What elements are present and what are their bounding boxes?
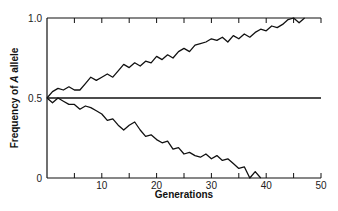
x-tick-label: 10	[96, 180, 108, 191]
y-axis-title: Frequency of A allele	[9, 47, 20, 148]
series-line-drift-down	[47, 98, 261, 178]
tick-labels: 102030405000.51.0	[28, 13, 327, 192]
x-tick-label: 40	[261, 180, 273, 191]
y-tick-label: 0.5	[28, 93, 42, 104]
x-tick-label: 50	[315, 180, 327, 191]
x-axis-title: Generations	[155, 189, 214, 200]
chart: 102030405000.51.0 Generations Frequency …	[0, 0, 338, 211]
y-tick-label: 1.0	[28, 13, 42, 24]
y-tick-label: 0	[36, 173, 42, 184]
series-line-drift-up	[47, 18, 305, 98]
series	[47, 18, 321, 178]
